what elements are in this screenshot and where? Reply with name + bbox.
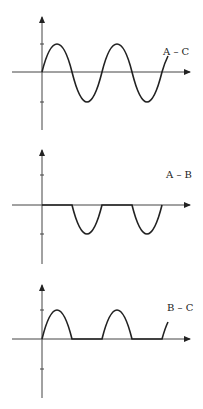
panel-a-b: A – B — [12, 150, 192, 264]
panel-b-c: B – C — [12, 285, 194, 398]
sine-waveform — [42, 44, 168, 102]
panel-label: A – C — [162, 46, 190, 57]
panel-label: A – B — [165, 169, 192, 180]
waveform-diagram: A – C A – B B – C — [0, 0, 203, 409]
panel-label: B – C — [167, 302, 194, 313]
negative-halfwave-waveform — [42, 205, 162, 234]
panel-a-c: A – C — [12, 17, 190, 130]
positive-halfwave-waveform — [42, 310, 168, 339]
